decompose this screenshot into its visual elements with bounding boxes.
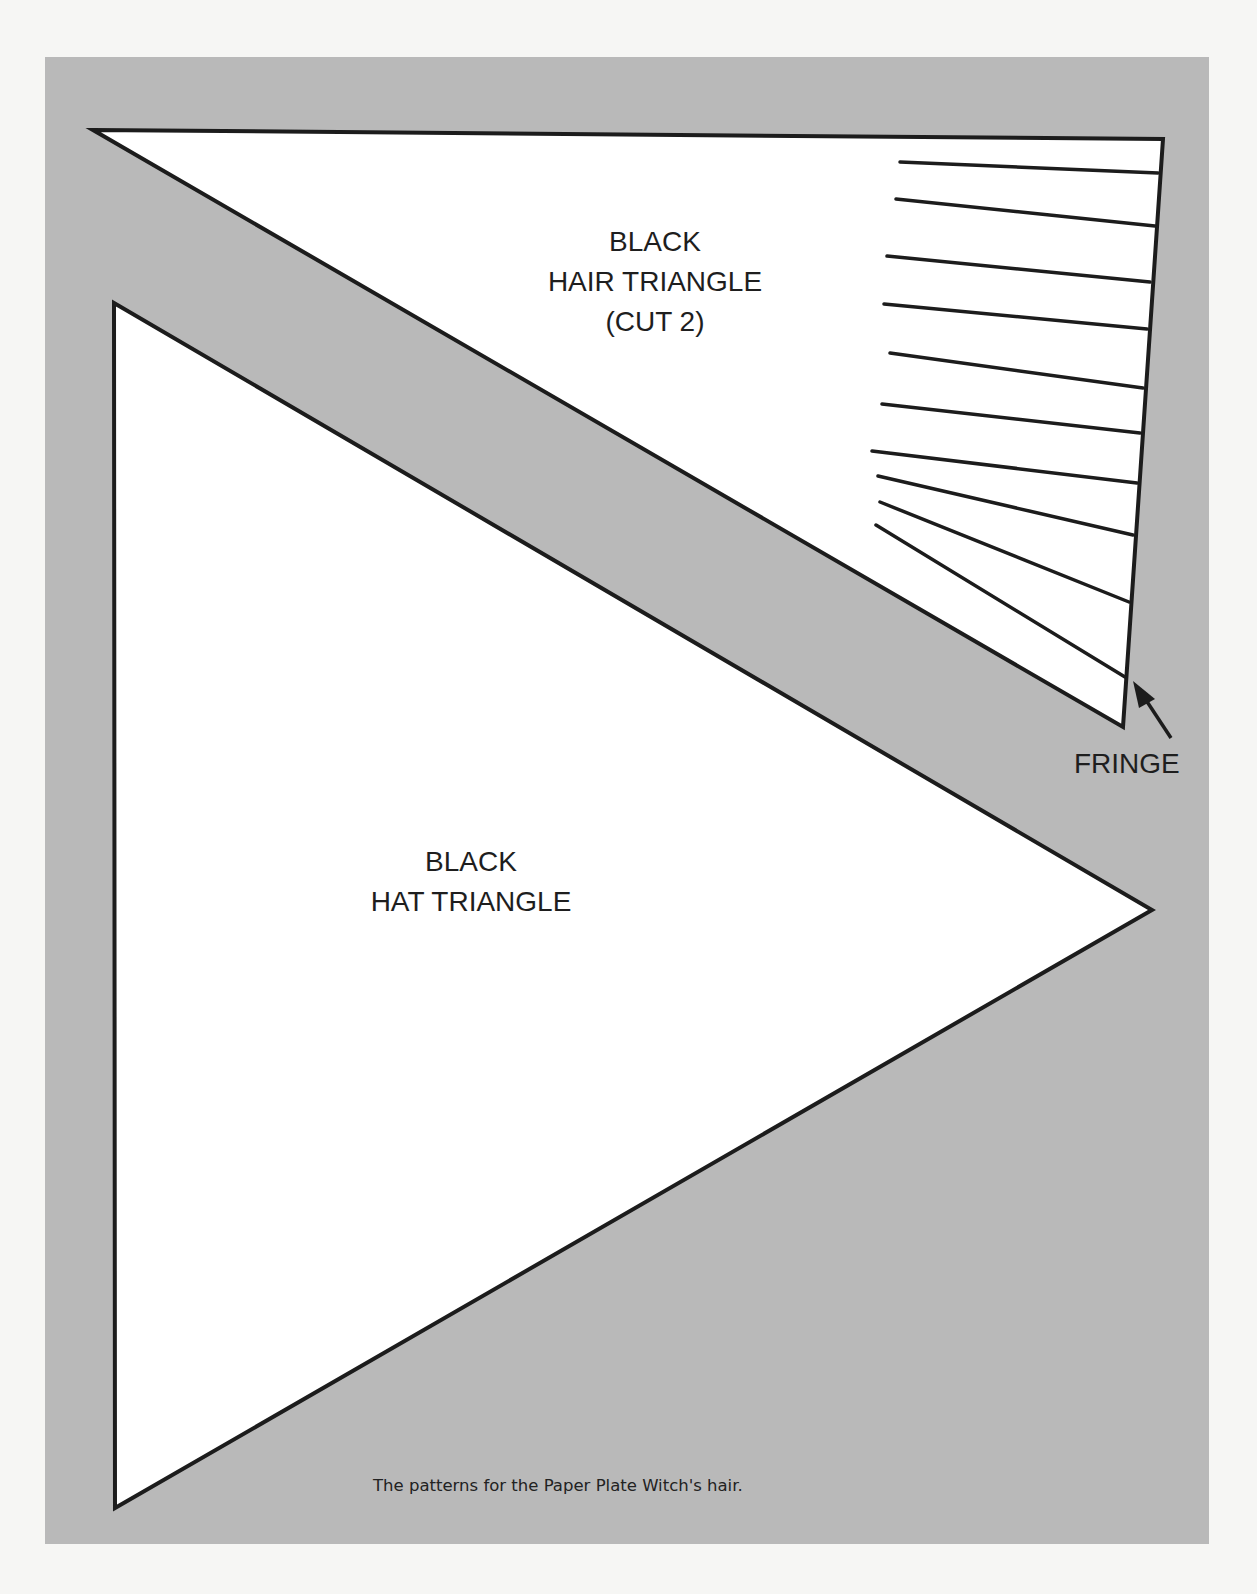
fringe-label: FRINGE	[1074, 744, 1180, 784]
hat-triangle-label: BLACK HAT TRIANGLE	[371, 842, 572, 922]
fringe-arrow-icon	[1133, 681, 1171, 738]
hat-label-line-1: BLACK	[371, 842, 572, 882]
hair-triangle-label: BLACK HAIR TRIANGLE (CUT 2)	[548, 222, 762, 342]
hair-label-line-2: HAIR TRIANGLE	[548, 262, 762, 302]
hat-label-line-2: HAT TRIANGLE	[371, 882, 572, 922]
figure-caption: The patterns for the Paper Plate Witch's…	[373, 1472, 743, 1500]
hair-label-line-3: (CUT 2)	[548, 302, 762, 342]
hair-label-line-1: BLACK	[548, 222, 762, 262]
